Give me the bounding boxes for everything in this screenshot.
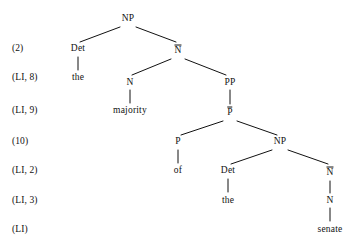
node-n-2: N xyxy=(326,195,333,205)
node-nbar-2: N xyxy=(326,167,333,178)
row-li-8: (LI, 8) xyxy=(12,72,38,82)
edge-pbar-p xyxy=(181,121,223,135)
tree-branch-lines xyxy=(0,0,353,248)
edge-np-det xyxy=(80,27,120,42)
node-np-2: NP xyxy=(274,136,287,146)
edge-np2-det2 xyxy=(231,150,272,164)
node-det-2: Det xyxy=(221,165,235,175)
terminal-majority: majority xyxy=(113,105,147,115)
node-pbar-label: P xyxy=(227,107,232,118)
syntax-tree-figure: (2)(LI, 8)(LI, 9)(10)(LI, 2)(LI, 3)(LI) … xyxy=(0,0,353,248)
edge-pbar-np2 xyxy=(237,121,277,135)
node-n-1: N xyxy=(126,77,133,87)
row-li: (LI) xyxy=(12,224,28,234)
node-pbar: P xyxy=(227,107,232,118)
node-p: P xyxy=(175,136,180,146)
node-np-root: NP xyxy=(122,13,135,23)
row-li-9: (LI, 9) xyxy=(12,105,38,115)
node-det-1: Det xyxy=(71,43,85,53)
edge-np2-nbar2 xyxy=(288,150,328,164)
terminal-of: of xyxy=(174,165,182,175)
row-10: (10) xyxy=(12,136,28,146)
terminal-the-1: the xyxy=(72,72,84,82)
row-li-3: (LI, 3) xyxy=(12,195,38,205)
row-2: (2) xyxy=(12,43,23,53)
edge-nbar-pp xyxy=(185,59,226,75)
edge-nbar-n xyxy=(132,59,171,75)
node-pp: PP xyxy=(225,77,236,87)
terminal-senate: senate xyxy=(318,224,343,234)
node-nbar-2-label: N xyxy=(326,167,333,178)
node-nbar-1-label: N xyxy=(174,45,181,56)
node-nbar-1: N xyxy=(174,45,181,56)
edge-np-nbar xyxy=(136,27,176,42)
terminal-the-2: the xyxy=(222,195,234,205)
row-li-2: (LI, 2) xyxy=(12,165,38,175)
